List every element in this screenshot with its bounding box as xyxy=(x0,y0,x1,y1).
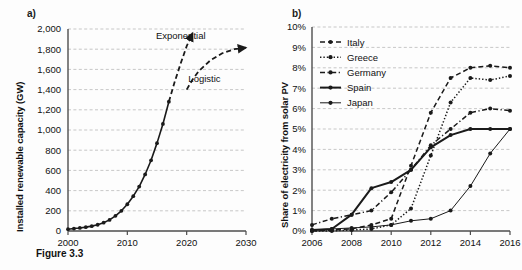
chart-b-series-line xyxy=(312,129,510,230)
chart-a-plot: 02004006008001,0001,2001,4001,6001,8002,… xyxy=(0,0,260,250)
chart-a-data-point xyxy=(102,221,106,225)
chart-a-data-point xyxy=(137,185,141,189)
chart-b-data-point xyxy=(449,209,453,213)
chart-a-y-tick-label: 800 xyxy=(45,145,61,156)
chart-b-data-point xyxy=(468,76,472,80)
chart-b-plot: 0%1%2%3%4%5%6%7%8%9%10%20062008201020122… xyxy=(260,0,522,250)
chart-b-y-tick-label: 1% xyxy=(292,205,306,216)
chart-b-data-point xyxy=(389,180,393,184)
chart-b-x-tick-label: 2016 xyxy=(499,237,520,248)
chart-b-data-point xyxy=(310,223,314,227)
chart-b-legend-item[interactable]: Japan xyxy=(320,97,373,108)
chart-b-data-point xyxy=(488,78,492,82)
chart-a-annotation: Exponential xyxy=(156,30,206,41)
chart-a-data-point xyxy=(149,158,153,162)
chart-b-data-point xyxy=(508,109,512,113)
legend-marker-icon xyxy=(328,86,332,90)
chart-b-x-tick-label: 2012 xyxy=(420,237,441,248)
chart-a-y-tick-label: 1,000 xyxy=(37,124,61,135)
chart-a-y-tick-label: 0 xyxy=(56,225,61,236)
chart-b-y-tick-label: 7% xyxy=(292,83,306,94)
chart-a-data-point xyxy=(108,218,112,222)
chart-b-data-point xyxy=(330,227,334,231)
chart-a-x-tick-label: 2020 xyxy=(176,237,197,248)
chart-b-data-point xyxy=(508,66,512,70)
chart-a-series-line xyxy=(68,102,169,229)
chart-b-data-point xyxy=(449,133,453,137)
chart-b-legend-item[interactable]: Greece xyxy=(320,52,378,63)
legend-label: Japan xyxy=(347,97,373,108)
chart-b-data-point xyxy=(508,127,512,131)
chart-b-data-point xyxy=(310,228,314,232)
chart-a-data-point xyxy=(90,224,94,228)
chart-b-series-line xyxy=(312,129,510,230)
chart-b-y-tick-label: 10% xyxy=(287,21,307,32)
chart-b-data-point xyxy=(429,145,433,149)
chart-a-series-line xyxy=(169,33,193,102)
chart-a-data-point xyxy=(131,194,135,198)
chart-b-data-point xyxy=(330,217,334,221)
chart-b-data-point xyxy=(369,225,373,229)
chart-b-data-point xyxy=(468,127,472,131)
chart-a-x-tick-label: 2030 xyxy=(235,237,256,248)
chart-b-x-tick-label: 2006 xyxy=(301,237,322,248)
chart-b-y-tick-label: 2% xyxy=(292,185,306,196)
chart-a-data-point xyxy=(96,223,100,227)
chart-b-y-tick-label: 6% xyxy=(292,103,306,114)
chart-b-data-point xyxy=(429,154,433,158)
chart-b-legend-item[interactable]: Italy xyxy=(320,37,365,48)
legend-label: Spain xyxy=(347,82,371,93)
chart-b-data-point xyxy=(488,64,492,68)
legend-marker-icon xyxy=(328,101,332,105)
legend-label: Greece xyxy=(347,52,378,63)
chart-b-data-point xyxy=(468,66,472,70)
chart-b-data-point xyxy=(468,184,472,188)
legend-label: Germany xyxy=(347,67,386,78)
chart-a-data-point xyxy=(161,122,165,126)
chart-b-data-point xyxy=(389,223,393,227)
chart-b-data-point xyxy=(369,209,373,213)
chart-a-y-tick-label: 600 xyxy=(45,165,61,176)
chart-a-annotation: Logistic xyxy=(188,73,220,84)
chart-a-x-tick-label: 2010 xyxy=(117,237,138,248)
chart-a-y-tick-label: 2,000 xyxy=(37,23,61,34)
chart-b-data-point xyxy=(488,127,492,131)
chart-a-data-point xyxy=(114,214,118,218)
chart-a-y-tick-label: 1,600 xyxy=(37,64,61,75)
legend-marker-icon xyxy=(328,70,332,74)
chart-a-y-tick-label: 1,400 xyxy=(37,84,61,95)
chart-b-y-tick-label: 3% xyxy=(292,164,306,175)
chart-b-data-point xyxy=(449,127,453,131)
chart-b-series-line xyxy=(312,66,510,231)
chart-b-data-point xyxy=(350,213,354,217)
chart-a-data-point xyxy=(155,141,159,145)
figure-caption: Figure 3.3 xyxy=(36,248,83,259)
chart-a-data-point xyxy=(66,227,70,231)
chart-b-data-point xyxy=(449,76,453,80)
chart-b-y-tick-label: 0% xyxy=(292,225,306,236)
chart-b-data-point xyxy=(449,100,453,104)
chart-a-data-point xyxy=(72,227,76,231)
chart-b-y-tick-label: 8% xyxy=(292,62,306,73)
chart-b-data-point xyxy=(429,217,433,221)
chart-a-data-point xyxy=(84,225,88,229)
chart-a-data-point xyxy=(78,226,82,230)
chart-b-x-tick-label: 2014 xyxy=(460,237,481,248)
chart-b-legend-item[interactable]: Germany xyxy=(320,67,386,78)
chart-b-x-tick-label: 2008 xyxy=(341,237,362,248)
chart-b-legend-item[interactable]: Spain xyxy=(320,82,371,93)
chart-b-y-tick-label: 4% xyxy=(292,144,306,155)
chart-b-data-point xyxy=(409,219,413,223)
chart-b-data-point xyxy=(409,168,413,172)
chart-a-x-tick-label: 2000 xyxy=(57,237,78,248)
chart-b-data-point xyxy=(488,151,492,155)
chart-a-y-tick-label: 1,800 xyxy=(37,44,61,55)
chart-b-x-tick-label: 2010 xyxy=(381,237,402,248)
legend-marker-icon xyxy=(328,40,332,44)
chart-a-y-tick-label: 400 xyxy=(45,185,61,196)
chart-b-data-point xyxy=(429,111,433,115)
legend-label: Italy xyxy=(347,37,365,48)
chart-b-data-point xyxy=(508,74,512,78)
chart-b-data-point xyxy=(468,111,472,115)
chart-b-y-tick-label: 9% xyxy=(292,42,306,53)
